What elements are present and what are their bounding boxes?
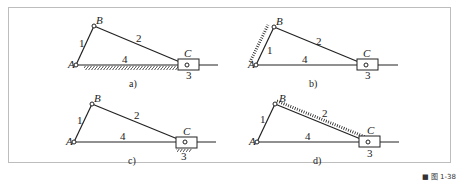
label-4: 4 — [122, 53, 128, 65]
joint-c — [364, 63, 368, 67]
ground-hatch — [250, 25, 268, 62]
label-4: 4 — [120, 130, 126, 142]
caption-b: b) — [309, 78, 317, 90]
label-2: 2 — [322, 107, 328, 119]
joint-c — [366, 140, 370, 144]
label-3: 3 — [367, 147, 373, 159]
label-b: B — [279, 92, 286, 104]
joint-c — [185, 63, 189, 67]
label-4: 4 — [305, 130, 311, 142]
label-2: 2 — [136, 32, 142, 44]
label-4: 4 — [302, 53, 308, 65]
panel-d: A B C 1 2 3 4 d) — [248, 92, 399, 167]
label-2: 2 — [316, 35, 322, 47]
label-a: A — [67, 58, 75, 70]
caption-c: c) — [128, 155, 136, 167]
label-c: C — [184, 47, 192, 59]
ground-hatch — [84, 66, 178, 70]
joint-b — [273, 102, 277, 106]
label-a: A — [247, 58, 255, 70]
label-b: B — [94, 92, 101, 104]
label-c: C — [367, 124, 375, 136]
caption-d: d) — [313, 155, 321, 167]
caption-a: a) — [129, 78, 137, 90]
figure-number: ■ 图 1-38 — [422, 171, 456, 181]
panel-c: A B C 1 2 3 4 c) — [65, 92, 216, 167]
label-3: 3 — [186, 69, 192, 81]
label-1: 1 — [77, 114, 83, 126]
label-a: A — [65, 135, 73, 147]
label-3: 3 — [365, 69, 371, 81]
label-b: B — [96, 14, 103, 26]
label-1: 1 — [260, 113, 266, 125]
panel-a: A B C 1 2 3 4 a) — [67, 14, 218, 90]
label-2: 2 — [134, 109, 140, 121]
label-3: 3 — [181, 150, 187, 162]
label-b: B — [276, 15, 283, 27]
label-1: 1 — [267, 44, 273, 56]
mechanism-diagram: A B C 1 2 3 4 a) A B C 1 2 3 4 b) A — [0, 0, 460, 182]
label-c: C — [183, 125, 191, 137]
label-c: C — [363, 47, 371, 59]
panel-b: A B C 1 2 3 4 b) — [247, 15, 398, 90]
label-a: A — [248, 135, 256, 147]
joint-c — [183, 140, 187, 144]
label-1: 1 — [79, 37, 85, 49]
